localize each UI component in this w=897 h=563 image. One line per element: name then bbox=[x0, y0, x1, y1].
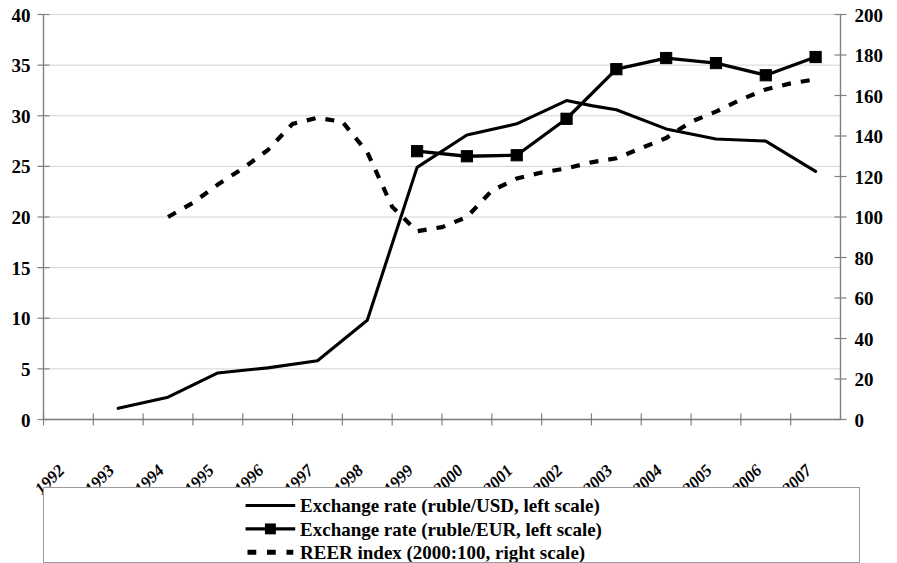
svg-text:100: 100 bbox=[855, 207, 884, 228]
svg-text:5: 5 bbox=[21, 359, 31, 380]
legend-item-2: Exchange rate (ruble/EUR, left scale) bbox=[246, 519, 602, 541]
svg-text:35: 35 bbox=[12, 55, 31, 76]
svg-text:0: 0 bbox=[855, 410, 865, 431]
svg-text:10: 10 bbox=[12, 308, 31, 329]
legend-item-1: Exchange rate (ruble/USD, left scale) bbox=[246, 495, 600, 517]
chart-canvas: 0510152025303540 02040608010012014016018… bbox=[0, 0, 897, 563]
chart-legend: Exchange rate (ruble/USD, left scale)Exc… bbox=[43, 487, 860, 563]
series-line-exchange-rate-usd bbox=[118, 101, 815, 409]
svg-text:20: 20 bbox=[12, 207, 31, 228]
legend-label: Exchange rate (ruble/EUR, left scale) bbox=[300, 519, 602, 541]
svg-text:25: 25 bbox=[12, 156, 31, 177]
legend-label: REER index (2000:100, right scale) bbox=[300, 542, 585, 562]
legend-swatch-square-marker bbox=[265, 523, 276, 534]
svg-text:180: 180 bbox=[855, 45, 884, 66]
svg-text:80: 80 bbox=[855, 248, 874, 269]
svg-text:40: 40 bbox=[855, 329, 874, 350]
svg-text:20: 20 bbox=[855, 369, 874, 390]
right-axis-tick-labels: 020406080100120140160180200 bbox=[855, 5, 884, 431]
series-markers-exchange-rate-eur bbox=[411, 51, 821, 161]
legend-item-3: REER index (2000:100, right scale) bbox=[248, 542, 586, 562]
svg-text:200: 200 bbox=[855, 5, 884, 26]
chart-figure: 0510152025303540 02040608010012014016018… bbox=[0, 0, 897, 563]
svg-text:0: 0 bbox=[21, 410, 31, 431]
svg-text:40: 40 bbox=[12, 5, 31, 26]
svg-text:140: 140 bbox=[855, 126, 884, 147]
legend-label: Exchange rate (ruble/USD, left scale) bbox=[300, 495, 600, 517]
svg-text:30: 30 bbox=[12, 106, 31, 127]
svg-text:15: 15 bbox=[12, 258, 31, 279]
legend-canvas: Exchange rate (ruble/USD, left scale)Exc… bbox=[44, 488, 859, 562]
svg-text:160: 160 bbox=[855, 86, 884, 107]
left-axis-tick-labels: 0510152025303540 bbox=[12, 5, 31, 431]
svg-text:60: 60 bbox=[855, 288, 874, 309]
svg-text:120: 120 bbox=[855, 167, 884, 188]
